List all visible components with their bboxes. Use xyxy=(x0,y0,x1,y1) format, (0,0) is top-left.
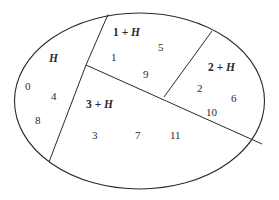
element-7: 7 xyxy=(135,129,141,141)
element-3: 3 xyxy=(92,129,98,141)
element-11: 11 xyxy=(170,129,181,141)
region-label-2-plus-h: 2 + H xyxy=(208,61,236,73)
element-9: 9 xyxy=(143,68,149,80)
divider-h-lower xyxy=(49,65,86,162)
element-4: 4 xyxy=(51,90,57,102)
coset-partition-diagram: H 0 4 8 1 + H 1 5 9 2 + H 2 6 10 3 + H 3… xyxy=(0,0,279,200)
element-6: 6 xyxy=(231,92,237,104)
element-2: 2 xyxy=(197,82,203,94)
region-label-3-plus-h: 3 + H xyxy=(86,98,114,110)
divider-1h-2h xyxy=(164,31,212,97)
divider-h-upper xyxy=(86,15,108,66)
element-8: 8 xyxy=(35,114,41,126)
element-1: 1 xyxy=(111,51,117,63)
region-label-1-plus-h: 1 + H xyxy=(113,26,141,38)
region-label-h: H xyxy=(48,52,59,64)
element-5: 5 xyxy=(158,41,164,53)
element-10: 10 xyxy=(206,106,218,118)
element-0: 0 xyxy=(25,80,31,92)
